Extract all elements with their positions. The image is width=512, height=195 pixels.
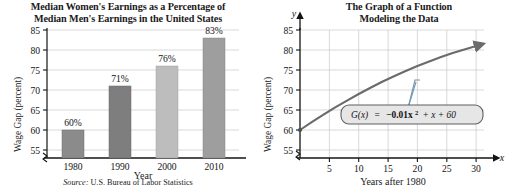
fn-xtick-20: 20 (413, 163, 423, 174)
bar-1990 (109, 86, 131, 158)
bar-ytick-55: 55 (30, 145, 40, 156)
bar-label-1990: 71% (111, 73, 129, 84)
bar-label-2010: 83% (205, 25, 223, 36)
fn-ytick-55: 55 (283, 145, 293, 156)
fn-xtick-25: 25 (442, 163, 452, 174)
function-graph-x-var-label: x (499, 152, 505, 163)
bar-ytick-65: 65 (30, 105, 40, 116)
bar-1980 (62, 130, 84, 158)
source-text: U.S. Bureau of Labor Statistics (90, 178, 192, 187)
bar-ytick-80: 80 (30, 45, 40, 56)
fn-xtick-30: 30 (471, 163, 481, 174)
formula-lhs: G(x) (351, 110, 368, 121)
fn-ytick-75: 75 (283, 65, 293, 76)
bar-2000 (156, 66, 178, 158)
bar-chart-source: Source: U.S. Bureau of Labor Statistics (0, 178, 256, 187)
bar-2010 (203, 38, 225, 158)
bar-chart-panel: Median Women's Earnings as a Percentage … (0, 0, 256, 195)
fn-xtick-15: 15 (383, 163, 393, 174)
function-graph-x-axis-label: Years after 1980 (300, 176, 486, 187)
function-graph-y-var-label: y (291, 8, 297, 19)
fn-ytick-70: 70 (283, 85, 293, 96)
fn-ytick-65: 65 (283, 105, 293, 116)
curve-y-intercept-point (298, 128, 302, 132)
bar-ytick-70: 70 (30, 85, 40, 96)
function-graph-plot: y x 85 80 75 70 65 60 55 (256, 0, 512, 195)
fn-ytick-85: 85 (283, 25, 293, 36)
fn-ytick-80: 80 (283, 45, 293, 56)
formula-equals: = (375, 110, 380, 120)
bar-ytick-85: 85 (30, 25, 40, 36)
formula-term2: + x + 60 (423, 110, 457, 120)
two-panel-figure: Median Women's Earnings as a Percentage … (0, 0, 512, 195)
formula-exponent: 2 (415, 109, 419, 116)
fn-xtick-5: 5 (327, 163, 332, 174)
fn-ytick-60: 60 (283, 125, 293, 136)
source-prefix: Source: (63, 178, 88, 187)
bar-ytick-75: 75 (30, 65, 40, 76)
function-plot-background (300, 30, 486, 155)
formula-term1: −0.01x (386, 110, 413, 120)
function-graph-panel: The Graph of a Function Modeling the Dat… (256, 0, 512, 195)
bar-ytick-60: 60 (30, 125, 40, 136)
bar-label-2000: 76% (158, 53, 176, 64)
bar-chart-plot: 85 80 75 70 65 60 55 60% 71% 76% 83% 198… (0, 0, 256, 195)
bar-label-1980: 60% (64, 117, 82, 128)
fn-xtick-10: 10 (354, 163, 364, 174)
